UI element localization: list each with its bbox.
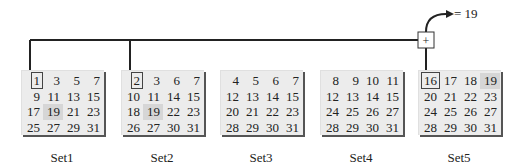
number-cell: 22 bbox=[460, 89, 480, 105]
number-cell: 31 bbox=[83, 120, 103, 136]
output-curve bbox=[426, 14, 446, 32]
number-cell: 15 bbox=[382, 89, 402, 105]
number-cell: 15 bbox=[282, 89, 302, 105]
set-card-5: 16171819202122232425262728293031 bbox=[418, 70, 501, 135]
number-cell: 31 bbox=[282, 120, 302, 136]
number-cell: 31 bbox=[382, 120, 402, 136]
set-label: Set2 bbox=[120, 150, 204, 164]
number-cell: 31 bbox=[183, 120, 203, 136]
number-cell: 30 bbox=[262, 120, 282, 136]
number-cell: 27 bbox=[143, 120, 163, 136]
number-cell: 24 bbox=[420, 104, 440, 120]
set-card-2: 2367101114151819222326273031 bbox=[121, 70, 204, 135]
number-cell: 11 bbox=[382, 73, 402, 89]
number-cell: 11 bbox=[143, 89, 163, 105]
number-cell: 14 bbox=[362, 89, 382, 105]
number-cell: 4 bbox=[222, 73, 242, 89]
number-cell: 31 bbox=[480, 120, 500, 136]
number-cell: 25 bbox=[342, 104, 362, 120]
number-cell: 26 bbox=[362, 104, 382, 120]
number-cell: 18 bbox=[460, 73, 480, 89]
number-cell: 23 bbox=[183, 104, 203, 120]
number-cell: 3 bbox=[143, 73, 163, 89]
number-cell: 13 bbox=[242, 89, 262, 105]
number-cell: 2 bbox=[123, 73, 143, 89]
number-cell: 22 bbox=[163, 104, 183, 120]
number-cell: 28 bbox=[420, 120, 440, 136]
set-label: Set4 bbox=[319, 150, 403, 164]
number-cell: 10 bbox=[123, 89, 143, 105]
number-cell: 9 bbox=[342, 73, 362, 89]
number-cell: 7 bbox=[183, 73, 203, 89]
number-cell: 23 bbox=[282, 104, 302, 120]
number-cell: 21 bbox=[242, 104, 262, 120]
number-cell: 13 bbox=[342, 89, 362, 105]
number-cell: 27 bbox=[382, 104, 402, 120]
number-cell: 28 bbox=[222, 120, 242, 136]
number-grid: 135791113151719212325272931 bbox=[22, 73, 105, 135]
set-card-3: 4567121314152021222328293031 bbox=[220, 70, 303, 135]
number-cell: 20 bbox=[222, 104, 242, 120]
number-cell: 25 bbox=[23, 120, 43, 136]
number-cell: 21 bbox=[440, 89, 460, 105]
number-cell: 5 bbox=[242, 73, 262, 89]
number-cell: 27 bbox=[480, 104, 500, 120]
set-label: Set5 bbox=[417, 150, 501, 164]
set-card-1: 135791113151719212325272931 bbox=[21, 70, 104, 135]
set-card-4: 891011121314152425262728293031 bbox=[320, 70, 403, 135]
number-cell: 12 bbox=[322, 89, 342, 105]
number-cell: 23 bbox=[480, 89, 500, 105]
number-cell: 14 bbox=[262, 89, 282, 105]
number-cell: 11 bbox=[43, 89, 63, 105]
number-cell: 12 bbox=[222, 89, 242, 105]
number-cell: 20 bbox=[420, 89, 440, 105]
result-label: = 19 bbox=[454, 6, 478, 22]
number-cell: 14 bbox=[163, 89, 183, 105]
number-cell: 19 bbox=[43, 104, 63, 120]
number-cell: 27 bbox=[43, 120, 63, 136]
set-label: Set1 bbox=[20, 150, 104, 164]
number-cell: 30 bbox=[362, 120, 382, 136]
number-cell: 16 bbox=[420, 73, 440, 89]
number-cell: 29 bbox=[342, 120, 362, 136]
number-cell: 10 bbox=[362, 73, 382, 89]
number-cell: 5 bbox=[63, 73, 83, 89]
number-cell: 29 bbox=[242, 120, 262, 136]
number-grid: 4567121314152021222328293031 bbox=[221, 73, 304, 135]
number-grid: 891011121314152425262728293031 bbox=[321, 73, 404, 135]
number-cell: 30 bbox=[460, 120, 480, 136]
number-cell: 30 bbox=[163, 120, 183, 136]
number-grid: 16171819202122232425262728293031 bbox=[419, 73, 502, 135]
number-cell: 26 bbox=[123, 120, 143, 136]
number-cell: 13 bbox=[63, 89, 83, 105]
number-cell: 15 bbox=[183, 89, 203, 105]
number-cell: 18 bbox=[123, 104, 143, 120]
number-cell: 23 bbox=[83, 104, 103, 120]
number-cell: 29 bbox=[63, 120, 83, 136]
number-cell: 29 bbox=[440, 120, 460, 136]
number-cell: 19 bbox=[480, 73, 500, 89]
number-cell: 17 bbox=[23, 104, 43, 120]
number-cell: 28 bbox=[322, 120, 342, 136]
number-cell: 7 bbox=[83, 73, 103, 89]
number-cell: 24 bbox=[322, 104, 342, 120]
number-cell: 25 bbox=[440, 104, 460, 120]
number-grid: 2367101114151819222326273031 bbox=[122, 73, 205, 135]
number-cell: 9 bbox=[23, 89, 43, 105]
adder-symbol: + bbox=[423, 34, 430, 48]
number-cell: 6 bbox=[163, 73, 183, 89]
number-cell: 6 bbox=[262, 73, 282, 89]
number-cell: 19 bbox=[143, 104, 163, 120]
number-cell: 22 bbox=[262, 104, 282, 120]
number-cell: 3 bbox=[43, 73, 63, 89]
number-cell: 15 bbox=[83, 89, 103, 105]
set-label: Set3 bbox=[219, 150, 303, 164]
number-cell: 21 bbox=[63, 104, 83, 120]
number-cell: 26 bbox=[460, 104, 480, 120]
number-cell: 7 bbox=[282, 73, 302, 89]
number-cell: 8 bbox=[322, 73, 342, 89]
arrowhead-icon bbox=[446, 10, 454, 18]
number-cell: 1 bbox=[23, 73, 43, 89]
number-cell: 17 bbox=[440, 73, 460, 89]
